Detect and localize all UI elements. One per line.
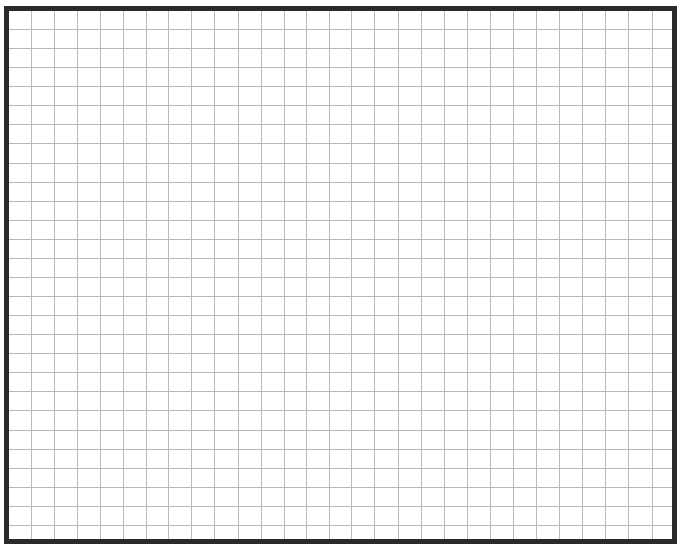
- grid-horizontal-line: [9, 372, 672, 373]
- grid-vertical-line: [329, 11, 330, 539]
- grid-horizontal-line: [9, 430, 672, 431]
- grid-vertical-line: [77, 11, 78, 539]
- grid-vertical-line: [398, 11, 399, 539]
- grid-horizontal-line: [9, 163, 672, 164]
- grid-vertical-line: [513, 11, 514, 539]
- grid-vertical-line: [536, 11, 537, 539]
- grid-vertical-line: [467, 11, 468, 539]
- grid-paper-canvas: [0, 0, 681, 552]
- grid-vertical-line: [421, 11, 422, 539]
- grid-horizontal-line: [9, 353, 672, 354]
- grid-vertical-line: [100, 11, 101, 539]
- grid-vertical-line: [628, 11, 629, 539]
- grid-horizontal-line: [9, 391, 672, 392]
- grid-horizontal-line: [9, 67, 672, 68]
- grid-horizontal-line: [9, 315, 672, 316]
- grid-vertical-line: [605, 11, 606, 539]
- grid-vertical-line: [214, 11, 215, 539]
- grid-vertical-line: [490, 11, 491, 539]
- grid-vertical-line: [31, 11, 32, 539]
- grid-vertical-line: [168, 11, 169, 539]
- grid-vertical-line: [582, 11, 583, 539]
- grid-horizontal-line: [9, 201, 672, 202]
- grid-horizontal-line: [9, 258, 672, 259]
- grid-horizontal-line: [9, 48, 672, 49]
- grid-vertical-line: [123, 11, 124, 539]
- grid-vertical-line: [284, 11, 285, 539]
- grid-vertical-line: [444, 11, 445, 539]
- grid-horizontal-line: [9, 29, 672, 30]
- grid-horizontal-line: [9, 182, 672, 183]
- grid-horizontal-line: [9, 143, 672, 144]
- grid-horizontal-line: [9, 277, 672, 278]
- grid-horizontal-line: [9, 449, 672, 450]
- grid-horizontal-line: [9, 124, 672, 125]
- grid-horizontal-line: [9, 105, 672, 106]
- grid-horizontal-line: [9, 506, 672, 507]
- grid-vertical-line: [351, 11, 352, 539]
- grid-vertical-line: [191, 11, 192, 539]
- grid-frame: [4, 6, 677, 544]
- grid-vertical-line: [238, 11, 239, 539]
- grid-horizontal-line: [9, 410, 672, 411]
- grid-vertical-line: [54, 11, 55, 539]
- grid-horizontal-line: [9, 525, 672, 526]
- grid-vertical-line: [374, 11, 375, 539]
- grid-vertical-line: [559, 11, 560, 539]
- grid-horizontal-line: [9, 220, 672, 221]
- grid-horizontal-line: [9, 239, 672, 240]
- grid-vertical-line: [652, 11, 653, 539]
- grid-horizontal-line: [9, 487, 672, 488]
- grid-horizontal-line: [9, 296, 672, 297]
- grid-vertical-line: [261, 11, 262, 539]
- grid-horizontal-line: [9, 334, 672, 335]
- grid-vertical-line: [146, 11, 147, 539]
- grid-vertical-line: [306, 11, 307, 539]
- grid-horizontal-line: [9, 86, 672, 87]
- grid-horizontal-line: [9, 468, 672, 469]
